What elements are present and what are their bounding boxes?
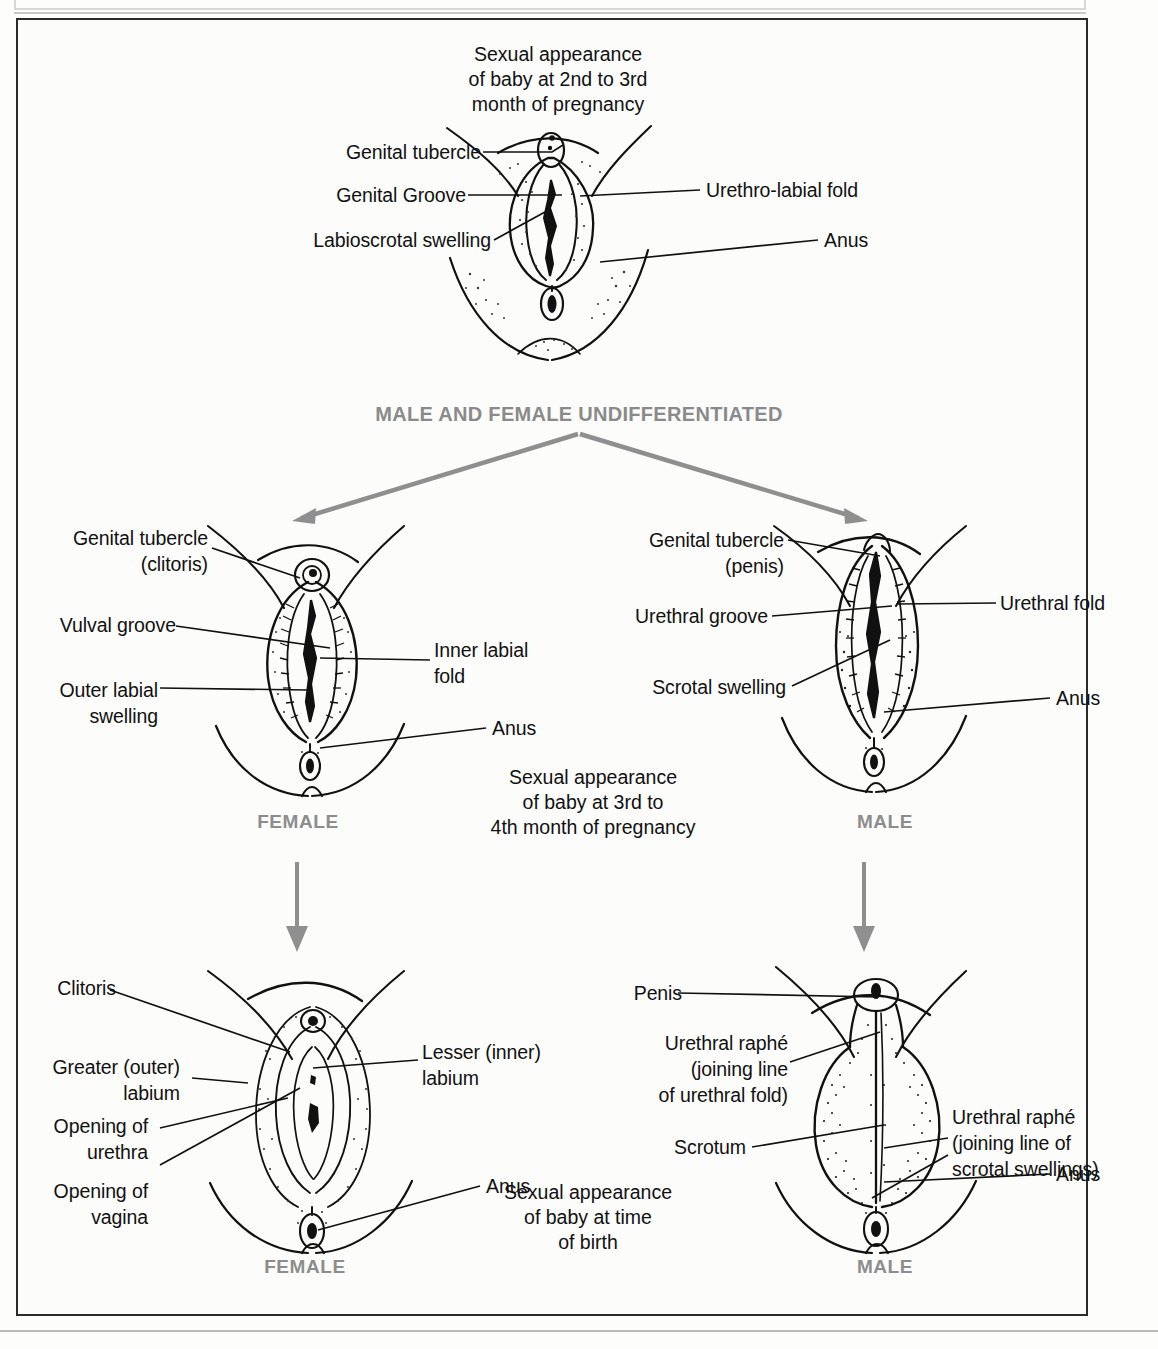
label-urethral-raphe-fold: Urethral raphé (joining line of urethral…: [570, 1030, 788, 1108]
label-anus-male-birth: Anus: [1056, 1163, 1100, 1186]
label-scrotum: Scrotum: [570, 1136, 746, 1159]
diagram-page: Sexual appearance of baby at 2nd to 3rd …: [0, 0, 1158, 1349]
label-penis: Penis: [570, 982, 682, 1005]
stage-label-male-birth: MALE: [790, 1256, 980, 1278]
